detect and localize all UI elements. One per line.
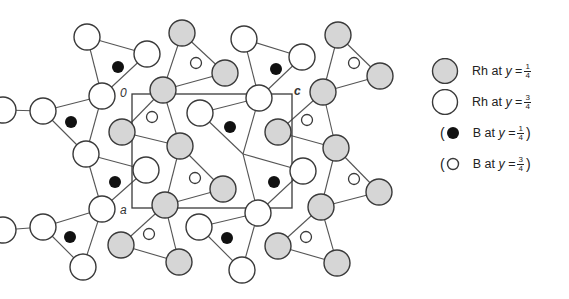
rh-atom-one-quarter xyxy=(210,176,236,202)
rh-atom-one-quarter xyxy=(169,20,195,46)
b-atom-one-quarter xyxy=(270,63,282,75)
rh-atom-one-quarter xyxy=(150,77,176,103)
legend-item-b-quarter: ( B at y = 14 ) xyxy=(430,120,531,146)
filled-dot-icon xyxy=(445,120,461,146)
rh-atom-three-quarter xyxy=(187,100,213,126)
rh-atom-three-quarter xyxy=(133,157,159,183)
close-paren: ) xyxy=(526,125,531,141)
b-atom-three-quarter xyxy=(302,115,313,126)
origin-label: 0 xyxy=(120,86,127,100)
rh-atom-three-quarter xyxy=(229,257,255,283)
rh-atom-three-quarter xyxy=(89,196,115,222)
rh-atom-one-quarter xyxy=(367,63,393,89)
rh-atom-three-quarter xyxy=(290,158,316,184)
a-axis-label: a xyxy=(120,203,127,217)
rh-atom-three-quarter xyxy=(231,26,257,52)
b-atom-three-quarter xyxy=(301,232,312,243)
b-atom-three-quarter xyxy=(147,112,158,123)
legend-item-rh-three-quarter: Rh at y = 34 xyxy=(430,89,531,115)
close-paren: ) xyxy=(526,156,531,172)
b-atom-three-quarter xyxy=(190,173,201,184)
rh-atom-three-quarter xyxy=(74,24,100,50)
rh-atom-one-quarter xyxy=(323,135,349,161)
open-circle-icon xyxy=(430,89,460,115)
legend-fraction: 14 xyxy=(517,125,523,142)
rh-atom-one-quarter xyxy=(308,194,334,220)
rh-atom-three-quarter xyxy=(134,41,160,67)
legend-text: Rh at xyxy=(472,95,502,109)
b-atom-one-quarter xyxy=(221,232,233,244)
legend-item-rh-quarter: Rh at y = 14 xyxy=(430,58,531,84)
rh-atom-three-quarter xyxy=(246,85,272,111)
rh-atom-one-quarter xyxy=(166,249,192,275)
legend-eq: = xyxy=(515,95,522,109)
rh-atom-three-quarter xyxy=(89,83,115,109)
b-atom-three-quarter xyxy=(144,229,155,240)
rh-atom-one-quarter xyxy=(212,60,238,86)
legend-eq: = xyxy=(508,126,515,140)
legend-text: B at xyxy=(473,126,495,140)
open-dot-icon xyxy=(445,151,461,177)
legend-eq: = xyxy=(508,157,515,171)
rh-atom-three-quarter xyxy=(289,44,315,70)
rh-atom-three-quarter xyxy=(186,214,212,240)
legend-text: Rh at xyxy=(472,64,502,78)
crystal-structure-diagram: 0 a c xyxy=(0,0,430,299)
rh-atom-three-quarter xyxy=(0,217,16,243)
b-atom-one-quarter xyxy=(64,231,76,243)
rh-atom-one-quarter xyxy=(325,22,351,48)
b-atom-one-quarter xyxy=(112,61,124,73)
legend-fraction: 34 xyxy=(524,94,530,111)
b-atom-one-quarter xyxy=(65,116,77,128)
rh-atom-one-quarter xyxy=(310,79,336,105)
rh-atom-one-quarter xyxy=(366,179,392,205)
legend-eq: = xyxy=(515,64,522,78)
b-atom-three-quarter xyxy=(191,58,202,69)
rh-atom-one-quarter xyxy=(265,119,291,145)
legend-text: B at xyxy=(473,157,495,171)
rh-atom-three-quarter xyxy=(70,254,96,280)
legend-fraction: 14 xyxy=(524,63,530,80)
legend-fraction: 34 xyxy=(517,156,523,173)
legend-var: y xyxy=(505,64,511,78)
rh-atom-one-quarter xyxy=(265,233,291,259)
legend-item-b-three-quarter: ( B at y = 34 ) xyxy=(430,151,531,177)
b-atom-one-quarter xyxy=(109,176,121,188)
rh-atom-three-quarter xyxy=(30,98,56,124)
rh-atom-three-quarter xyxy=(0,97,16,123)
b-atom-three-quarter xyxy=(349,58,360,69)
rh-atom-three-quarter xyxy=(30,214,56,240)
rh-atom-three-quarter xyxy=(73,141,99,167)
rh-atom-one-quarter xyxy=(167,133,193,159)
rh-atom-one-quarter xyxy=(108,232,134,258)
legend-var: y xyxy=(505,95,511,109)
rh-atom-one-quarter xyxy=(109,119,135,145)
shaded-circle-icon xyxy=(430,58,460,84)
rh-atom-one-quarter xyxy=(324,250,350,276)
legend-var: y xyxy=(498,126,504,140)
legend-var: y xyxy=(498,157,504,171)
b-atom-one-quarter xyxy=(268,176,280,188)
c-axis-label: c xyxy=(294,84,301,98)
b-atom-three-quarter xyxy=(349,174,360,185)
rh-atom-one-quarter xyxy=(152,192,178,218)
rh-atom-three-quarter xyxy=(245,200,271,226)
b-atom-one-quarter xyxy=(224,121,236,133)
